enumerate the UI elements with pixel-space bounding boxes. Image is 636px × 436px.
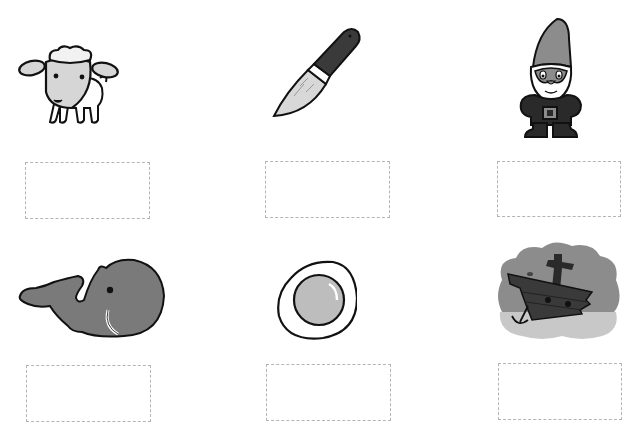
shipwreck-picture bbox=[492, 240, 622, 340]
fried-egg-icon bbox=[277, 258, 357, 342]
sheep-icon bbox=[10, 22, 120, 132]
whale-picture bbox=[16, 250, 168, 342]
answer-box-gnome[interactable] bbox=[497, 161, 621, 217]
answer-box-sheep[interactable] bbox=[25, 162, 150, 219]
gnome-picture bbox=[515, 15, 585, 140]
whale-icon bbox=[16, 250, 168, 342]
gnome-icon bbox=[515, 15, 585, 140]
knife-picture bbox=[268, 22, 364, 122]
answer-box-shipwreck[interactable] bbox=[498, 363, 622, 420]
fried-egg-picture bbox=[277, 258, 357, 342]
shipwreck-icon bbox=[492, 240, 622, 340]
sheep-picture bbox=[10, 22, 120, 132]
answer-box-knife[interactable] bbox=[265, 161, 390, 218]
answer-box-egg[interactable] bbox=[266, 364, 391, 421]
knife-icon bbox=[268, 22, 364, 122]
answer-box-whale[interactable] bbox=[26, 365, 151, 422]
